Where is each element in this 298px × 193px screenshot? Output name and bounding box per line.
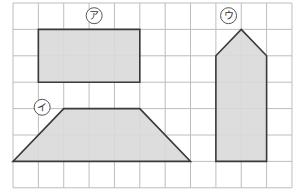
grid-diagram: アイウ	[0, 0, 298, 193]
shape-pentagon-u	[216, 29, 267, 161]
svg-text:ア: ア	[89, 10, 99, 21]
svg-text:ウ: ウ	[224, 10, 234, 21]
shape-label-u: ウ	[221, 8, 237, 24]
shape-rectangle-a	[38, 29, 139, 82]
shape-label-i: イ	[34, 99, 50, 115]
shape-trapezoid-i	[13, 109, 191, 162]
shape-label-a: ア	[86, 8, 102, 24]
svg-text:イ: イ	[37, 102, 47, 113]
